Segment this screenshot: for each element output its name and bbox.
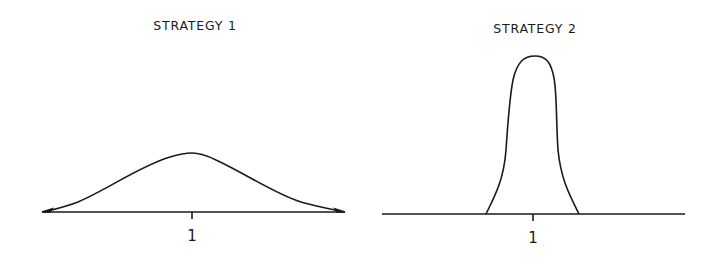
strategy-1-curve xyxy=(44,153,342,212)
distribution-curves xyxy=(0,0,717,267)
strategy-1-plot xyxy=(42,153,345,219)
strategy-1-chart: STRATEGY 1 1 STRATEGY 2 1 xyxy=(0,0,717,267)
strategy-2-curve xyxy=(486,56,579,214)
strategy-2-plot xyxy=(382,56,685,221)
